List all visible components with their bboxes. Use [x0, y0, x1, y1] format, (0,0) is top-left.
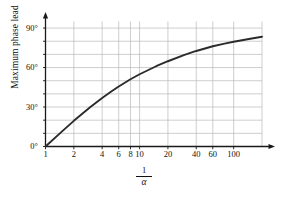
x-tick-label: 8 [128, 150, 132, 159]
x-tick-label: 2 [72, 150, 76, 159]
x-tick-label: 60 [209, 150, 218, 159]
chart-figure: Maximum phase lead 0°30°60°90° 124681020… [0, 0, 287, 202]
x-tick-label: 100 [227, 150, 240, 159]
x-axis-tick-labels: 1246810204060100 [0, 150, 287, 164]
x-axis-label-numerator: 1 [130, 166, 158, 175]
x-tick-label: 6 [117, 150, 121, 159]
x-tick-label: 40 [192, 150, 201, 159]
gridlines [46, 22, 263, 147]
x-tick-label: 20 [164, 150, 173, 159]
y-axis-arrowhead [43, 12, 48, 19]
x-axis-arrowhead [269, 144, 276, 149]
y-tick-label: 60° [26, 63, 38, 72]
y-tick-label: 30° [26, 103, 38, 112]
x-tick-label: 10 [135, 150, 144, 159]
x-tick-label: 1 [43, 150, 47, 159]
y-axis-tick-labels: 0°30°60°90° [8, 0, 38, 202]
y-tick-label: 90° [26, 24, 38, 33]
x-tick-label: 4 [100, 150, 104, 159]
curve-maximum-phase-lead [46, 37, 263, 147]
data-curve [46, 37, 263, 147]
x-axis-label-denominator: α [130, 178, 158, 188]
x-axis-label: 1 α [130, 166, 158, 188]
